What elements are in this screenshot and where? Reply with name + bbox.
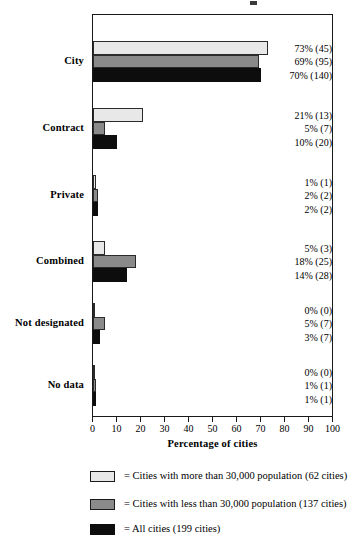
bar-no-data-series-1 bbox=[93, 365, 95, 379]
bar-contract-series-2 bbox=[93, 122, 105, 136]
category-label-private: Private bbox=[0, 190, 84, 201]
bar-combined-series-2 bbox=[93, 255, 136, 269]
legend-entry-1: = Cities with more than 30,000 populatio… bbox=[90, 469, 347, 483]
bar-no-data-series-2 bbox=[93, 379, 96, 393]
x-tick-50 bbox=[212, 417, 213, 422]
bar-contract-series-1 bbox=[93, 108, 143, 122]
value-label-not-designated-series-2: 5% (7) bbox=[212, 319, 332, 329]
legend-swatch-gray bbox=[90, 499, 115, 510]
bar-private-series-1 bbox=[93, 175, 96, 189]
legend-label-1: = Cities with more than 30,000 populatio… bbox=[124, 471, 347, 482]
x-tick-60 bbox=[236, 417, 237, 422]
category-label-not-designated: Not designated bbox=[0, 318, 84, 329]
bar-no-data-series-3 bbox=[93, 392, 96, 406]
legend-swatch-light bbox=[90, 471, 115, 482]
bar-combined-series-3 bbox=[93, 268, 127, 282]
category-label-no-data: No data bbox=[0, 380, 84, 391]
x-tick-20 bbox=[140, 417, 141, 422]
value-label-not-designated-series-3: 3% (7) bbox=[212, 333, 332, 343]
value-label-city-series-1: 73% (45) bbox=[212, 44, 332, 54]
bar-not-designated-series-1 bbox=[93, 303, 95, 317]
category-label-city: City bbox=[0, 56, 84, 67]
x-tick-100 bbox=[332, 417, 333, 422]
value-label-contract-series-2: 5% (7) bbox=[212, 124, 332, 134]
value-label-private-series-1: 1% (1) bbox=[212, 178, 332, 188]
legend-swatch-black bbox=[90, 524, 115, 535]
category-label-contract: Contract bbox=[0, 123, 84, 134]
x-tick-30 bbox=[164, 417, 165, 422]
legend-entry-3: = All cities (199 cities) bbox=[90, 522, 220, 536]
value-label-combined-series-1: 5% (3) bbox=[212, 244, 332, 254]
value-label-no-data-series-2: 1% (1) bbox=[212, 381, 332, 391]
legend-label-3: = All cities (199 cities) bbox=[124, 524, 220, 535]
x-tick-90 bbox=[308, 417, 309, 422]
bar-not-designated-series-3 bbox=[93, 330, 100, 344]
bar-not-designated-series-2 bbox=[93, 317, 105, 331]
value-label-no-data-series-1: 0% (0) bbox=[212, 368, 332, 378]
value-label-private-series-3: 2% (2) bbox=[212, 205, 332, 215]
x-tick-40 bbox=[188, 417, 189, 422]
value-label-no-data-series-3: 1% (1) bbox=[212, 395, 332, 405]
value-label-city-series-2: 69% (95) bbox=[212, 57, 332, 67]
x-axis-title: Percentage of cities bbox=[92, 438, 333, 449]
value-label-contract-series-1: 21% (13) bbox=[212, 111, 332, 121]
bar-contract-series-3 bbox=[93, 135, 117, 149]
value-label-combined-series-3: 14% (28) bbox=[212, 271, 332, 281]
x-tick-10 bbox=[116, 417, 117, 422]
bar-private-series-3 bbox=[93, 202, 98, 216]
chart-figure: CityContractPrivateCombinedNot designate… bbox=[0, 0, 355, 546]
value-label-city-series-3: 70% (140) bbox=[212, 71, 332, 81]
x-tick-80 bbox=[284, 417, 285, 422]
bar-combined-series-1 bbox=[93, 241, 105, 255]
value-label-combined-series-2: 18% (25) bbox=[212, 257, 332, 267]
x-tick-label-100: 100 bbox=[313, 424, 353, 434]
category-label-combined: Combined bbox=[0, 256, 84, 267]
bar-private-series-2 bbox=[93, 189, 98, 203]
value-label-private-series-2: 2% (2) bbox=[212, 191, 332, 201]
value-label-not-designated-series-1: 0% (0) bbox=[212, 306, 332, 316]
value-label-contract-series-3: 10% (20) bbox=[212, 138, 332, 148]
title-remnant-mark bbox=[250, 1, 257, 5]
x-tick-70 bbox=[260, 417, 261, 422]
legend-entry-2: = Cities with less than 30,000 populatio… bbox=[90, 497, 347, 511]
legend-label-2: = Cities with less than 30,000 populatio… bbox=[124, 499, 347, 510]
x-tick-0 bbox=[92, 417, 93, 422]
